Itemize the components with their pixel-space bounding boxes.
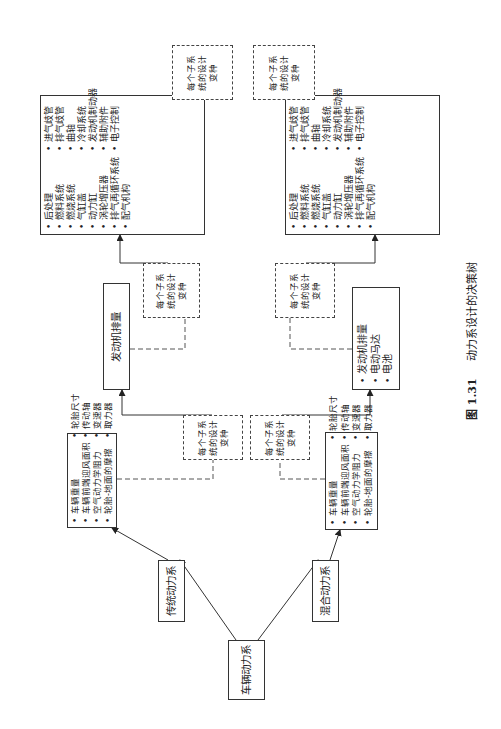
design-variant-box-upper-conventional: 每个子系 统的设计 变种 [143,263,200,318]
variant-label: 每个子系 统的设计 变种 [289,273,322,309]
list-item: 发动机排量 [357,324,370,383]
list-item: 辅助附件 [99,88,110,151]
list-item: 燃烧系统 [66,157,77,229]
list-item: 涡轮增压器 [99,157,110,229]
list-item: 冷却系统 [322,88,333,151]
list-item: 变速器 [92,393,103,438]
engine-displacement-box: 发动机排量 [103,283,130,390]
list-item: 燃烧系统 [311,157,322,229]
list-item: 动力缸 [88,157,99,229]
list-item: 车辆重量 [70,442,81,523]
branch-label: 混合动力系 [319,566,332,616]
rotated-diagram-canvas: 车辆动力系 传统动力系 混合动力系 车辆重量 车辆前端迎风面积 空气动力学阻力 … [0,0,501,729]
design-variant-box-upper-hybrid: 每个子系 统的设计 变种 [275,263,335,318]
list-item: 气缸盖 [77,157,88,229]
list-item: 电动马达 [370,334,383,383]
variant-label: 每个子系 统的设计 变种 [155,273,188,309]
list-item: 动力缸 [333,157,344,229]
variant-label: 每个子系 统的设计 变种 [264,420,297,456]
list-item: 传动轴 [81,393,92,438]
list-item: 排气再循环系统 [110,157,121,229]
list-item: 取力器 [363,395,375,440]
list-item: 排气歧管 [55,88,66,151]
list-item: 配气机构 [121,157,132,229]
list-item: 电子控制 [355,88,366,151]
list-item: 发动机制动器 [333,88,344,151]
list-item: 进气歧管 [44,88,55,151]
list-item: 空气动力学阻力 [351,444,363,525]
list-item: 电子控制 [110,88,121,151]
list-item: 排气再循环系统 [355,157,366,229]
variant-label: 每个子系 统的设计 变种 [186,55,219,91]
engine-subsystem-list-conventional: 后处理 燃料系统 燃烧系统 气缸盖 动力缸 涡轮增压器 排气再循环系统 配气机构… [40,95,205,235]
list-item: 燃料系统 [300,157,311,229]
vehicle-parameter-list-conventional: 车辆重量 车辆前端迎风面积 空气动力学阻力 轮胎-地面的摩擦 轮胎尺寸 传动轴 … [67,433,117,528]
design-variant-box-top-conventional: 每个子系 统的设计 变种 [172,45,233,100]
list-item: 配气机构 [366,157,377,229]
list-item: 轮胎-地面的摩擦 [363,444,375,525]
list-item: 变速器 [351,395,363,440]
figure-title: 动力系设计的决策树 [466,262,479,361]
design-variant-box-mid-conventional: 每个子系 统的设计 变种 [183,415,243,460]
list-item: 曲轴 [66,88,77,151]
list-item: 冷却系统 [77,88,88,151]
branch-label: 传统动力系 [165,566,178,616]
list-item: 车辆前端迎风面积 [340,444,352,525]
engine-displacement-label: 发动机排量 [110,312,123,362]
list-item: 辅助附件 [344,88,355,151]
list-item: 电池 [382,354,395,383]
list-item: 轮胎-地面的摩擦 [103,442,114,523]
list-item: 轮胎尺寸 [328,395,340,440]
list-item: 取力器 [103,393,114,438]
design-variant-box-top-hybrid: 每个子系 统的设计 变种 [253,45,315,100]
branch-hybrid-powertrain: 混合动力系 [312,560,339,622]
root-label: 车辆动力系 [240,645,253,695]
variant-label: 每个子系 统的设计 变种 [268,55,301,91]
branch-conventional-powertrain: 传统动力系 [158,560,185,622]
figure-caption: 图 1.31 动力系设计的决策树 [463,262,479,420]
hybrid-engine-motor-battery-list: 发动机排量 电动马达 电池 [352,287,400,390]
list-item: 车辆前端迎风面积 [81,442,92,523]
list-item: 后处理 [44,157,55,229]
design-variant-box-mid-hybrid: 每个子系 统的设计 变种 [250,415,310,460]
list-item: 轮胎尺寸 [70,393,81,438]
list-item: 传动轴 [340,395,352,440]
list-item: 空气动力学阻力 [92,442,103,523]
list-item: 涡轮增压器 [344,157,355,229]
root-node-vehicle-powertrain: 车辆动力系 [228,640,265,700]
engine-subsystem-list-hybrid: 后处理 燃料系统 燃烧系统 气缸盖 动力缸 涡轮增压器 排气再循环系统 配气机构… [285,95,440,235]
figure-number: 图 1.31 [466,378,479,420]
vehicle-parameter-list-hybrid: 车辆重量 车辆前端迎风面积 空气动力学阻力 轮胎-地面的摩擦 轮胎尺寸 传动轴 … [325,432,378,530]
list-item: 发动机制动器 [88,88,99,151]
list-item: 燃料系统 [55,157,66,229]
list-item: 后处理 [289,157,300,229]
list-item: 气缸盖 [322,157,333,229]
variant-label: 每个子系 统的设计 变种 [197,420,230,456]
list-item: 车辆重量 [328,444,340,525]
